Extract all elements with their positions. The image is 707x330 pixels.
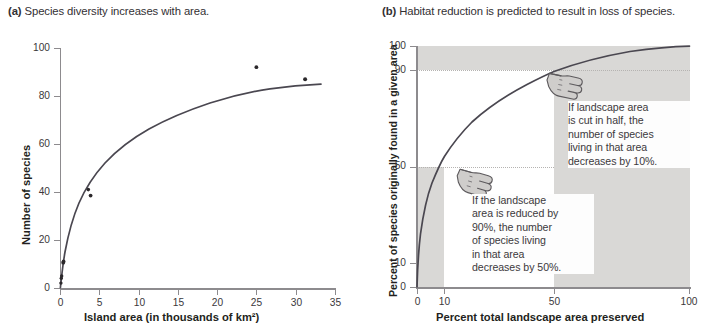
- callout-upper-right: If landscape area is cut in half, the nu…: [568, 101, 690, 168]
- callout-lower-left: If the landscape area is reduced by 90%,…: [472, 194, 594, 274]
- panel-a-species-area: (a) Species diversity increases with are…: [0, 0, 372, 330]
- panel-a-data-point: [60, 274, 63, 277]
- panel-a-plot-svg: [0, 0, 372, 330]
- panel-a-fit-curve: [60, 84, 321, 287]
- panel-a-data-point: [303, 77, 307, 81]
- pointing-hand-icon: [544, 66, 590, 100]
- panel-a-data-point: [59, 281, 62, 284]
- panel-a-data-point: [87, 188, 91, 192]
- panel-b-habitat-reduction: (b) Habitat reduction is predicted to re…: [372, 0, 707, 330]
- pointing-hand-icon: [454, 163, 500, 197]
- panel-a-data-point: [89, 194, 93, 198]
- panel-a-data-point: [62, 260, 66, 264]
- panel-a-data-point: [255, 65, 259, 69]
